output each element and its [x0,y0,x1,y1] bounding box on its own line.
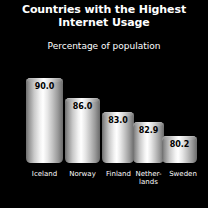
bar-sweden: 80.2 [162,136,197,163]
bar-value-label: 90.0 [26,82,63,92]
bar-chart-figure: Countries with the Highest Internet Usag… [0,0,208,208]
bar-finland: 83.0 [102,112,134,163]
x-axis-label-sweden: Sweden [163,170,203,178]
bar-norway: 86.0 [65,98,100,163]
bar-iceland: 90.0 [26,78,63,163]
bar-body: 86.0 [65,98,100,163]
bar-value-label: 83.0 [102,116,134,126]
plot-area: 90.0 86.0 83.0 82.9 80.2 I [0,0,208,208]
bar-body: 80.2 [162,136,197,163]
bar-body: 90.0 [26,78,63,163]
bar-value-label: 80.2 [162,140,197,150]
bar-body: 82.9 [133,122,164,163]
bar-netherlands: 82.9 [133,122,164,163]
bar-body: 83.0 [102,112,134,163]
bar-value-label: 82.9 [133,126,164,136]
bar-value-label: 86.0 [65,102,100,112]
